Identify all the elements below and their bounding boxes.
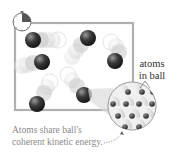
atoms-label-line2: in ball: [134, 70, 170, 82]
clock-icon: [13, 11, 31, 31]
moving-ball-5: [29, 74, 58, 112]
diagram: atoms in ball Atoms share ball's coheren…: [0, 0, 170, 164]
moving-ball-2: [64, 30, 96, 65]
atoms-in-ball-label: atoms in ball: [134, 58, 170, 82]
caption: Atoms share ball's coherent kinetic ener…: [12, 125, 142, 148]
caption-line1: Atoms share ball's: [12, 125, 142, 137]
moving-ball-3: [14, 54, 50, 74]
moving-ball-6: [60, 67, 92, 103]
magnifier-circle: [108, 82, 156, 131]
caption-line2: coherent kinetic energy.: [12, 137, 142, 149]
moving-ball-4: [103, 34, 127, 69]
moving-ball-1: [25, 32, 66, 48]
atoms-label-line1: atoms: [134, 58, 170, 70]
